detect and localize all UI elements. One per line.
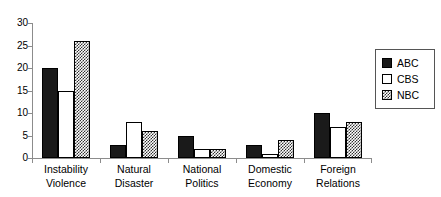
category-label-0: InstabilityViolence: [32, 162, 100, 190]
legend-label: ABC: [397, 57, 419, 69]
bar-cbs-4: [330, 127, 346, 159]
bar-abc-3: [246, 145, 262, 159]
legend-item-abc[interactable]: ABC: [382, 55, 434, 71]
category-label-line1: Foreign: [320, 163, 356, 175]
category-label-4: ForeignRelations: [304, 162, 372, 190]
category-label-2: NationalPolitics: [168, 162, 236, 190]
y-tick-label: 0: [22, 151, 28, 164]
bar-cbs-2: [194, 149, 210, 158]
legend-swatch-icon: [382, 74, 392, 84]
legend: ABC CBS NBC: [375, 49, 435, 109]
category-label-line2: Economy: [236, 176, 304, 190]
category-label-line1: Natural: [117, 163, 151, 175]
legend-label: NBC: [397, 89, 419, 101]
legend-item-nbc[interactable]: NBC: [382, 87, 434, 103]
bar-abc-0: [42, 68, 58, 158]
legend-label: CBS: [397, 73, 419, 85]
category-label-line2: Relations: [304, 176, 372, 190]
plot-area: 0 5 10 15 20 25 30: [32, 18, 372, 163]
category-label-line1: Domestic: [248, 163, 292, 175]
bar-nbc-3: [278, 140, 294, 158]
category-axis-labels: InstabilityViolenceNaturalDisasterNation…: [32, 162, 372, 196]
legend-swatch-icon: [382, 58, 392, 68]
category-label-line2: Violence: [32, 176, 100, 190]
y-tick-label: 25: [17, 39, 28, 52]
category-label-3: DomesticEconomy: [236, 162, 304, 190]
bar-nbc-1: [142, 131, 158, 158]
bar-chart: 0 5 10 15 20 25 30: [0, 0, 441, 197]
legend-swatch-icon: [382, 90, 392, 100]
category-label-1: NaturalDisaster: [100, 162, 168, 190]
y-tick-label: 15: [17, 84, 28, 97]
category-label-line1: Instability: [44, 163, 88, 175]
y-tick-label: 30: [17, 16, 28, 29]
bar-nbc-2: [210, 149, 226, 158]
category-label-line2: Politics: [168, 176, 236, 190]
bar-abc-1: [110, 145, 126, 159]
y-tick-label: 10: [17, 106, 28, 119]
legend-item-cbs[interactable]: CBS: [382, 71, 434, 87]
bar-nbc-4: [346, 122, 362, 158]
y-tick-label: 5: [22, 129, 28, 142]
bars-layer: [32, 18, 372, 159]
bar-cbs-1: [126, 122, 142, 158]
bar-abc-2: [178, 136, 194, 159]
bar-nbc-0: [74, 41, 90, 158]
bar-cbs-0: [58, 91, 74, 159]
bar-cbs-3: [262, 154, 278, 159]
bar-abc-4: [314, 113, 330, 158]
category-label-line2: Disaster: [100, 176, 168, 190]
category-label-line1: National: [183, 163, 222, 175]
y-tick-label: 20: [17, 61, 28, 74]
